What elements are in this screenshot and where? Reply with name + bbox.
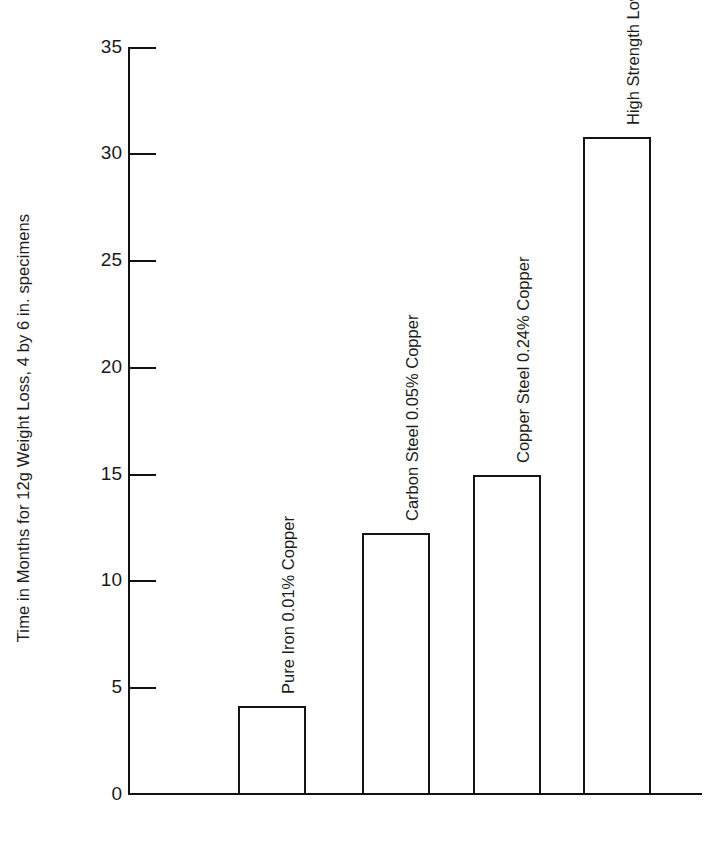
bar-label-copper-steel: Copper Steel 0.24% Copper xyxy=(515,257,532,463)
x-axis-line xyxy=(128,793,702,795)
y-tick-15 xyxy=(130,474,156,476)
y-tick-5 xyxy=(130,687,156,689)
y-tick-20 xyxy=(130,367,156,369)
y-tick-25 xyxy=(130,260,156,262)
bar-label-carbon-steel: Carbon Steel 0.05% Copper xyxy=(404,315,421,521)
y-tick-label-25: 25 xyxy=(60,250,122,269)
y-tick-10 xyxy=(130,580,156,582)
y-tick-label-0: 0 xyxy=(60,784,122,803)
y-tick-label-10: 10 xyxy=(60,570,122,589)
y-tick-30 xyxy=(130,153,156,155)
bar-label-hsla-steel: High Strength Low Alloy Steel xyxy=(625,0,642,125)
y-tick-label-15: 15 xyxy=(60,464,122,483)
y-axis-title: Time in Months for 12g Weight Loss, 4 by… xyxy=(0,0,46,856)
bar-carbon-steel[interactable] xyxy=(362,533,430,793)
y-tick-35 xyxy=(130,47,156,49)
y-tick-label-30: 30 xyxy=(60,143,122,162)
y-tick-label-35: 35 xyxy=(60,37,122,56)
y-axis-line xyxy=(128,47,130,795)
y-tick-label-5: 5 xyxy=(60,677,122,696)
bar-copper-steel[interactable] xyxy=(473,475,541,793)
y-tick-label-20: 20 xyxy=(60,357,122,376)
bar-chart: Time in Months for 12g Weight Loss, 4 by… xyxy=(0,0,711,856)
bar-label-pure-iron: Pure Iron 0.01% Copper xyxy=(280,516,297,694)
bar-hsla-steel[interactable] xyxy=(583,137,651,793)
bar-pure-iron[interactable] xyxy=(238,706,306,793)
